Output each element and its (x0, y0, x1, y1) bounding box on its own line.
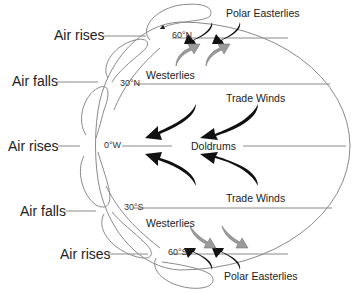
label-air-falls-north: Air falls (12, 74, 58, 88)
label-air-rises-equator: Air rises (8, 139, 59, 153)
label-polar-easterlies-north: Polar Easterlies (226, 8, 300, 19)
latitude-60n: 60°N (172, 31, 192, 40)
label-air-rises-north: Air rises (54, 28, 105, 42)
label-westerlies-north: Westerlies (146, 70, 195, 81)
label-air-rises-south: Air rises (60, 247, 111, 261)
leader-lines (57, 36, 148, 254)
circulation-diagram: Air rises Air falls Air rises Air falls … (0, 0, 355, 292)
label-trade-winds-north: Trade Winds (226, 93, 285, 104)
label-doldrums: Doldrums (191, 141, 236, 152)
label-westerlies-south: Westerlies (146, 218, 195, 229)
label-polar-easterlies-south: Polar Easterlies (224, 271, 298, 282)
label-air-falls-south: Air falls (20, 204, 66, 218)
latitude-60s: 60°S (168, 248, 188, 257)
label-trade-winds-south: Trade Winds (226, 193, 285, 204)
latitude-equator: 0°W (104, 141, 121, 150)
latitude-30n: 30°N (120, 79, 140, 88)
latitude-30s: 30°S (124, 203, 144, 212)
